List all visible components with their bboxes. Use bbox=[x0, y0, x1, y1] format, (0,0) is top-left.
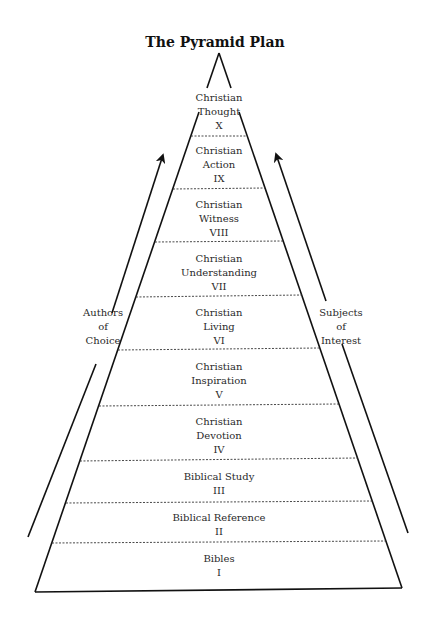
tier-christian-living: ChristianLivingVI bbox=[169, 306, 269, 348]
pyramid-base bbox=[35, 588, 402, 592]
right-arrow-label: Subjects of Interest bbox=[301, 306, 381, 348]
left-arrow-label: Authors of Choice bbox=[63, 306, 143, 348]
tier-christian-inspiration: ChristianInspirationV bbox=[169, 360, 269, 402]
tier-christian-action: ChristianActionIX bbox=[169, 144, 269, 186]
tier-biblical-study: Biblical StudyIII bbox=[149, 470, 289, 498]
tier-christian-thought: ChristianThoughtX bbox=[169, 91, 269, 133]
pyramid-apex-right bbox=[219, 53, 231, 88]
tier-christian-understanding: ChristianUnderstandingVII bbox=[149, 252, 289, 294]
tier-christian-devotion: ChristianDevotionIV bbox=[169, 415, 269, 457]
tier-bibles: BiblesI bbox=[169, 552, 269, 580]
pyramid-apex-left bbox=[207, 53, 219, 88]
diagram-title: The Pyramid Plan bbox=[0, 34, 430, 50]
tier-biblical-reference: Biblical ReferenceII bbox=[139, 511, 299, 539]
right-arrow-lower bbox=[342, 344, 408, 533]
tier-christian-witness: ChristianWitnessVIII bbox=[169, 198, 269, 240]
